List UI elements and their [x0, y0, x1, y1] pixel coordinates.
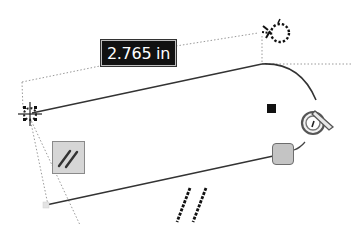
sketch-line-top[interactable]	[32, 64, 262, 113]
fix-point-icon[interactable]	[18, 102, 42, 126]
arc-center-point[interactable]	[267, 104, 276, 113]
sketch-canvas[interactable]	[0, 0, 353, 229]
parallel-icon	[53, 142, 84, 173]
sketch-arc[interactable]	[262, 64, 316, 100]
coincident-icon[interactable]	[261, 19, 289, 42]
dimension-label[interactable]: 2.765 in	[101, 40, 176, 66]
sketch-connector	[294, 142, 305, 150]
line-endpoint-handle[interactable]	[272, 143, 294, 165]
tangent-icon[interactable]	[302, 111, 333, 134]
parallel-glyph-icon[interactable]	[177, 188, 206, 222]
endpoint-marker[interactable]	[43, 202, 49, 208]
parallel-constraint-badge[interactable]	[52, 141, 85, 174]
